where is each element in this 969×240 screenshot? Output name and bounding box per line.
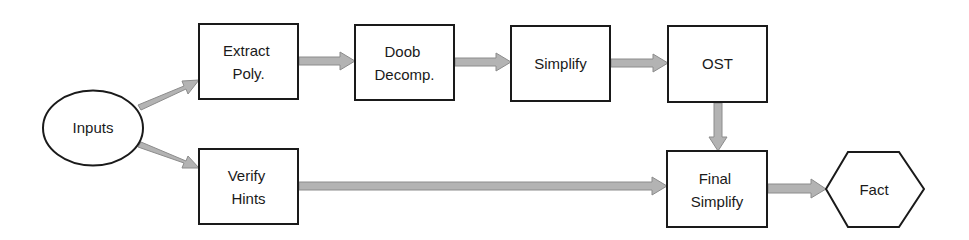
inputs-label: Inputs	[73, 119, 114, 136]
doob-decomp-box	[355, 25, 454, 100]
ost-label: OST	[702, 55, 733, 72]
final-simplify-box	[667, 151, 767, 227]
flowchart-canvas: Inputs Extract Poly. Doob Decomp. Simpli…	[0, 0, 969, 240]
arrow-extract-poly-to-doob-decomp	[299, 52, 355, 70]
node-simplify: Simplify	[511, 26, 610, 101]
extract-poly-box	[199, 24, 298, 99]
arrow-simplify-to-ost	[611, 54, 668, 72]
node-verify-hints: Verify Hints	[199, 149, 298, 224]
arrow-verify-hints-to-final-simplify	[299, 177, 667, 195]
arrow-inputs-to-extract-poly	[138, 80, 199, 110]
arrow-inputs-to-verify-hints	[138, 142, 199, 168]
node-final-simplify: Final Simplify	[667, 151, 767, 227]
node-ost: OST	[668, 26, 767, 102]
arrow-ost-to-final-simplify	[709, 103, 727, 151]
node-inputs: Inputs	[43, 91, 143, 166]
arrow-doob-decomp-to-simplify	[455, 53, 511, 71]
node-doob-decomp: Doob Decomp.	[355, 25, 454, 100]
verify-hints-box	[199, 149, 298, 224]
fact-label: Fact	[859, 181, 889, 198]
node-extract-poly: Extract Poly.	[199, 24, 298, 99]
node-fact: Fact	[826, 152, 924, 227]
arrow-final-simplify-to-fact	[768, 179, 826, 198]
simplify-label: Simplify	[534, 55, 587, 72]
